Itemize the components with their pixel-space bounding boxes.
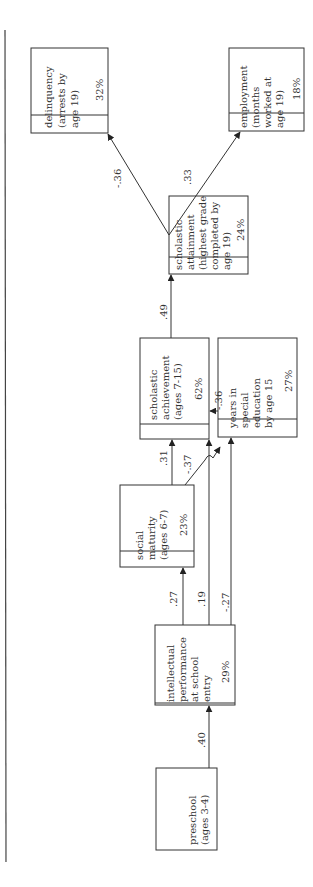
line: (highest grade xyxy=(197,196,209,270)
coef-intellectual-social: .27 xyxy=(168,591,179,607)
line: by age 15 xyxy=(263,378,275,428)
variance-value: 29% xyxy=(220,661,231,683)
variance-attainment: 24% xyxy=(235,219,247,241)
line: intellectual xyxy=(165,637,177,702)
label-social-maturity: social maturity (ages 6-7) xyxy=(134,510,170,561)
label-employment: employment xyxy=(238,65,249,128)
page-rule xyxy=(5,30,6,862)
line: (ages 3-4) xyxy=(199,795,211,846)
variance-value: 23% xyxy=(178,514,189,536)
line: entry xyxy=(201,637,213,702)
coef-value: .40 xyxy=(196,732,207,748)
line: education xyxy=(251,378,263,428)
label-employment-2: (months xyxy=(250,87,261,128)
label-attainment: scholastic attainment (highest grade com… xyxy=(173,196,233,270)
coef-value: -.27 xyxy=(220,593,231,612)
label-employment-3: worked at xyxy=(262,77,273,128)
coef-value: .49 xyxy=(158,304,169,320)
line: scholastic xyxy=(173,196,185,270)
line: attainment xyxy=(185,196,197,270)
variance-value: 27% xyxy=(283,370,294,392)
coef-intellectual-specialed: -.27 xyxy=(220,593,231,612)
line: (ages 7-15) xyxy=(172,355,184,420)
variance-delinquency: 32% xyxy=(94,79,105,101)
coef-achievement-attainment: .49 xyxy=(158,304,169,320)
coef-attainment-employment: .33 xyxy=(182,169,193,185)
line: at school xyxy=(189,637,201,702)
label-achievement: scholastic achievement (ages 7-15) xyxy=(148,355,184,420)
coef-intellectual-achievement: .19 xyxy=(196,591,207,607)
coef-value: -.36 xyxy=(112,169,123,188)
line: (ages 6-7) xyxy=(158,510,170,561)
line: social xyxy=(134,510,146,561)
label-preschool: preschool (ages 3-4) xyxy=(187,795,211,846)
line: special xyxy=(239,378,251,428)
coef-specialed-achievement: -.36 xyxy=(213,391,224,410)
variance-intellectual: 29% xyxy=(220,661,232,683)
variance-special-education: 27% xyxy=(283,370,295,392)
coef-value: -.37 xyxy=(182,455,193,474)
variance-achievement: 62% xyxy=(193,378,205,400)
line: performance xyxy=(177,637,189,702)
label-intellectual: intellectual performance at school entry xyxy=(165,637,213,702)
variance-value: 62% xyxy=(193,378,204,400)
coef-value: .19 xyxy=(196,591,207,607)
coef-social-specialed: -.37 xyxy=(182,455,193,474)
line: achievement xyxy=(160,355,172,420)
label-delinquency-3: age 19) xyxy=(69,90,80,128)
line: years in xyxy=(227,378,239,428)
line: preschool xyxy=(187,795,199,846)
coef-value: .31 xyxy=(158,450,169,466)
label-employment-4: age 19) xyxy=(274,90,285,128)
variance-employment: 18% xyxy=(291,78,302,100)
label-delinquency: delinquency xyxy=(43,66,54,128)
path-diagram: delinquency (arrests by age 19) 32% empl… xyxy=(0,0,313,887)
line: scholastic xyxy=(148,355,160,420)
line: completed by xyxy=(209,196,221,270)
line: maturity xyxy=(146,510,158,561)
coef-social-achievement: .31 xyxy=(158,450,169,466)
coef-value: .27 xyxy=(168,591,179,607)
coef-attainment-delinquency: -.36 xyxy=(112,169,123,188)
label-delinquency-2: (arrests by xyxy=(56,73,67,128)
variance-social-maturity: 23% xyxy=(178,514,190,536)
variance-value: 24% xyxy=(235,219,246,241)
label-special-education: years in special education by age 15 xyxy=(227,378,275,428)
line: age 19) xyxy=(221,196,233,270)
coef-value: -.36 xyxy=(213,391,224,410)
coef-value: .33 xyxy=(182,169,193,185)
coef-preschool-intellectual: .40 xyxy=(196,732,207,748)
